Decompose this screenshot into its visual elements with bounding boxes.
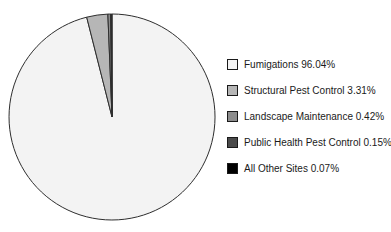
legend-label-landscape-maintenance: Landscape Maintenance 0.42% xyxy=(244,110,384,123)
legend-label-structural-pest-control: Structural Pest Control 3.31% xyxy=(244,84,376,97)
legend-item-landscape-maintenance: Landscape Maintenance 0.42% xyxy=(227,110,391,123)
legend-swatch-landscape-maintenance xyxy=(227,111,238,122)
legend-label-fumigations: Fumigations 96.04% xyxy=(244,58,335,71)
legend-item-public-health-pest-control: Public Health Pest Control 0.15% xyxy=(227,136,391,149)
legend-swatch-fumigations xyxy=(227,59,238,70)
legend-item-structural-pest-control: Structural Pest Control 3.31% xyxy=(227,84,391,97)
pie-chart-figure: Fumigations 96.04% Structural Pest Contr… xyxy=(0,0,391,232)
legend-swatch-public-health-pest-control xyxy=(227,137,238,148)
chart-legend: Fumigations 96.04% Structural Pest Contr… xyxy=(227,58,391,188)
legend-item-fumigations: Fumigations 96.04% xyxy=(227,58,391,71)
legend-swatch-all-other-sites xyxy=(227,163,238,174)
pie-chart xyxy=(0,0,230,232)
legend-swatch-structural-pest-control xyxy=(227,85,238,96)
legend-item-all-other-sites: All Other Sites 0.07% xyxy=(227,162,391,175)
legend-label-public-health-pest-control: Public Health Pest Control 0.15% xyxy=(244,136,391,149)
legend-label-all-other-sites: All Other Sites 0.07% xyxy=(244,162,339,175)
